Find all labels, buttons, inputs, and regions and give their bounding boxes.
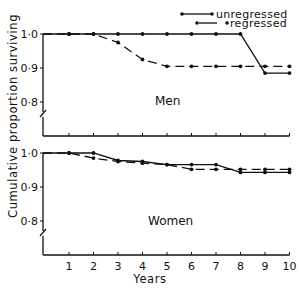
x-tick-label: 3 — [115, 260, 122, 273]
series-regressed — [43, 153, 290, 169]
x-tick-labels: 12345678910 — [66, 260, 297, 273]
y-tick-label: 0·8 — [21, 96, 39, 109]
panel-women: 0·80·91·0 — [21, 147, 292, 255]
panel-label-women: Women — [148, 214, 193, 228]
x-tick-label: 10 — [283, 260, 297, 273]
y-tick-label: 0·9 — [21, 62, 39, 75]
x-tick-label: 9 — [262, 260, 269, 273]
y-axis-title: Cumulative proportion surviving — [6, 14, 20, 218]
series-regressed — [43, 34, 290, 66]
x-tick-label: 6 — [188, 260, 195, 273]
x-tick-label: 1 — [66, 260, 73, 273]
legend: unregressed regressed — [180, 8, 287, 30]
x-axis-title: Years — [132, 272, 166, 286]
legend-regressed: regressed — [195, 17, 287, 30]
legend-label-regressed: regressed — [230, 17, 287, 30]
x-tick-label: 2 — [90, 260, 97, 273]
x-tick-label: 8 — [237, 260, 244, 273]
y-tick-label: 1·0 — [21, 28, 39, 41]
y-tick-label: 0·9 — [21, 181, 39, 194]
y-tick-label: 1·0 — [21, 147, 39, 160]
panel-label-men: Men — [155, 94, 180, 108]
y-tick-label: 0·8 — [21, 215, 39, 228]
x-tick-label: 7 — [213, 260, 220, 273]
survival-chart: unregressed regressed Cumulative proport… — [0, 0, 302, 291]
panel-men: 0·80·91·0 — [21, 28, 292, 136]
